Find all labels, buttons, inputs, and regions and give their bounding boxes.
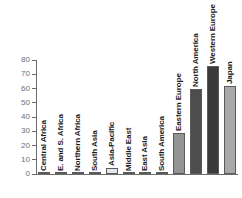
bar-slot[interactable]: Eastern Europe bbox=[173, 54, 185, 175]
bar-slot[interactable]: Asia-Pacific bbox=[106, 54, 118, 175]
y-axis-tick: 70 bbox=[0, 69, 36, 79]
y-axis-tick: 40 bbox=[0, 112, 36, 122]
y-axis-tick-label: 20 bbox=[21, 141, 30, 151]
bar-label: Northern Africa bbox=[73, 114, 82, 171]
bar-slot[interactable]: South Asia bbox=[89, 54, 101, 175]
bar-slot[interactable]: Northern Africa bbox=[72, 54, 84, 175]
bar[interactable] bbox=[55, 172, 67, 174]
bar-label: Western Europe bbox=[208, 5, 217, 65]
bar-slot[interactable]: E. and S. Africa bbox=[55, 54, 67, 175]
bar-slot[interactable]: Central Africa bbox=[38, 54, 50, 175]
bar-slot[interactable]: North America bbox=[190, 54, 202, 175]
bar[interactable] bbox=[123, 172, 135, 174]
bar-label: Japan bbox=[225, 61, 234, 84]
y-axis-tick-label: 50 bbox=[21, 98, 30, 108]
bar-label: North America bbox=[191, 33, 200, 87]
bar[interactable] bbox=[190, 89, 202, 175]
y-axis-tick: 10 bbox=[0, 155, 36, 165]
y-axis-tick: 0 bbox=[0, 169, 36, 179]
bar[interactable] bbox=[38, 172, 50, 174]
bar[interactable] bbox=[224, 86, 236, 174]
bar-label: E. and S. Africa bbox=[56, 114, 65, 171]
bar-label: Asia-Pacific bbox=[107, 121, 116, 165]
y-axis-tick: 60 bbox=[0, 84, 36, 94]
bar[interactable] bbox=[89, 172, 101, 174]
bar-slot[interactable]: East Asia bbox=[139, 54, 151, 175]
y-axis-tick: 30 bbox=[0, 126, 36, 136]
bar-label: Eastern Europe bbox=[174, 73, 183, 131]
y-axis-tick-label: 0 bbox=[26, 169, 30, 179]
y-axis-tick-label: 30 bbox=[21, 126, 30, 136]
bar[interactable] bbox=[139, 172, 151, 174]
bar[interactable] bbox=[72, 172, 84, 174]
bar-label: Middle East bbox=[124, 127, 133, 170]
y-axis-tick: 20 bbox=[0, 141, 36, 151]
bar[interactable] bbox=[106, 168, 118, 174]
bar-label: South Asia bbox=[90, 130, 99, 171]
bar-label: East Asia bbox=[140, 136, 149, 171]
bar-slot[interactable]: Western Europe bbox=[207, 54, 219, 175]
bar-label: South America bbox=[157, 116, 166, 171]
bars-container: Central AfricaE. and S. AfricaNorthern A… bbox=[36, 54, 238, 175]
y-axis-tick: 80 bbox=[0, 55, 36, 65]
y-axis-tick: 50 bbox=[0, 98, 36, 108]
bar-chart-figure: 01020304050607080 Central AfricaE. and S… bbox=[0, 0, 242, 198]
bar[interactable] bbox=[173, 133, 185, 174]
bar-slot[interactable]: South America bbox=[156, 54, 168, 175]
bar-slot[interactable]: Middle East bbox=[123, 54, 135, 175]
bar-slot[interactable]: Japan bbox=[224, 54, 236, 175]
bar[interactable] bbox=[207, 66, 219, 174]
y-axis-tick-label: 70 bbox=[21, 69, 30, 79]
bar[interactable] bbox=[156, 172, 168, 174]
y-axis-tick-label: 60 bbox=[21, 84, 30, 94]
y-axis-tick-label: 40 bbox=[21, 112, 30, 122]
y-axis-tick-label: 10 bbox=[21, 155, 30, 165]
bar-label: Central Africa bbox=[39, 120, 48, 171]
y-axis-tick-label: 80 bbox=[21, 55, 30, 65]
